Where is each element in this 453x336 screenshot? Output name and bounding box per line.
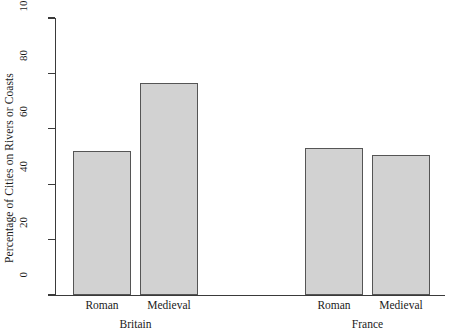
y-tick-label: 60 xyxy=(0,122,46,136)
y-tick-mark xyxy=(48,73,55,74)
y-tick-label-text: 0 xyxy=(16,272,30,318)
bar-chart: Percentage of Cities on Rivers or Coasts… xyxy=(0,0,453,336)
y-tick-label: 40 xyxy=(0,177,46,191)
y-tick-mark xyxy=(48,239,55,240)
y-tick-label: 80 xyxy=(0,66,46,80)
y-tick-mark xyxy=(48,294,55,295)
bar xyxy=(140,83,198,295)
y-axis-line xyxy=(55,18,56,295)
x-group-label: Britain xyxy=(73,318,198,330)
y-tick-label-text: 40 xyxy=(16,161,30,207)
y-tick-label: 0 xyxy=(0,288,46,302)
y-tick-mark xyxy=(48,184,55,185)
y-tick-mark xyxy=(48,128,55,129)
x-tick-label: Medieval xyxy=(352,299,450,311)
y-tick-label: 20 xyxy=(0,233,46,247)
bar xyxy=(73,151,131,295)
y-tick-label: 100 xyxy=(0,11,46,25)
y-tick-label-text: 60 xyxy=(16,106,30,152)
x-group-label: France xyxy=(305,318,430,330)
bar xyxy=(372,155,430,295)
y-tick-label-text: 80 xyxy=(16,50,30,96)
y-tick-mark xyxy=(48,17,55,18)
y-tick-label-text: 20 xyxy=(16,217,30,263)
bar xyxy=(305,148,363,295)
y-tick-label-text: 100 xyxy=(16,0,30,41)
x-tick-label: Medieval xyxy=(120,299,218,311)
